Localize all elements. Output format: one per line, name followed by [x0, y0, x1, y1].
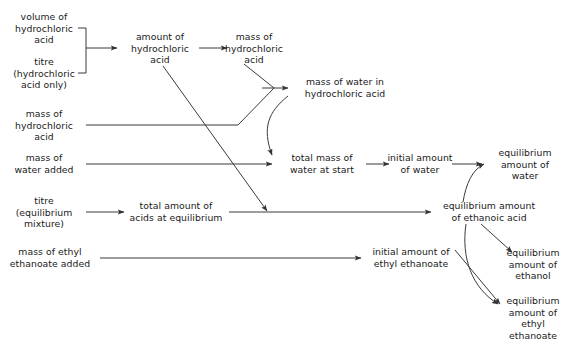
- node-total-mass-of-water-at-start: total mass of water at start: [290, 152, 354, 175]
- node-titre-hydrochloric-acid-only: titre (hydrochloric acid only): [13, 56, 75, 91]
- node-volume-of-hydrochloric-acid: volume of hydrochloric acid: [15, 11, 73, 46]
- node-mass-of-hydrochloric-acid-input: mass of hydrochloric acid: [15, 108, 73, 143]
- node-equilibrium-amount-of-ethanol: equilibrium amount of ethanol: [506, 247, 559, 282]
- node-initial-amount-of-ethyl-ethanoate: initial amount of ethyl ethanoate: [372, 246, 449, 269]
- edge-eq-ethanoic-to-eq-ethyl-ethanoate: [465, 224, 498, 304]
- flow-diagram: volume of hydrochloric acid titre (hydro…: [0, 0, 583, 347]
- node-initial-amount-of-water: initial amount of water: [387, 152, 452, 175]
- edge-amount-hcl-to-acids-line: [163, 66, 267, 211]
- node-equilibrium-amount-of-ethyl-ethanoate: equilibrium amount of ethyl ethanoate: [506, 295, 559, 341]
- edge-initial-ethyl-ethanoate-to-eq: [455, 250, 500, 304]
- edge-mass-hcl-derived-to-merge: [244, 64, 274, 88]
- edge-eq-ethanoic-to-eq-water: [463, 164, 484, 202]
- node-mass-of-hydrochloric-acid-derived: mass of hydrochloric acid: [225, 31, 283, 66]
- node-mass-of-water-added: mass of water added: [14, 152, 73, 175]
- node-equilibrium-amount-of-water: equilibrium amount of water: [496, 147, 554, 182]
- edge-bracket-hcl-inputs: [78, 28, 86, 73]
- node-total-amount-of-acids-at-equilibrium: total amount of acids at equilibrium: [130, 200, 223, 223]
- edge-mass-hcl-input-to-merge: [86, 88, 274, 125]
- node-titre-equilibrium-mixture: titre (equilibrium mixture): [16, 195, 73, 230]
- node-mass-of-water-in-hydrochloric-acid: mass of water in hydrochloric acid: [305, 76, 386, 99]
- edge-water-in-hcl-to-total-mass-water: [267, 96, 288, 155]
- node-equilibrium-amount-of-ethanoic-acid: equilibrium amount of ethanoic acid: [443, 200, 535, 223]
- node-mass-of-ethyl-ethanoate-added: mass of ethyl ethanoate added: [10, 246, 90, 269]
- node-amount-of-hydrochloric-acid: amount of hydrochloric acid: [131, 31, 189, 66]
